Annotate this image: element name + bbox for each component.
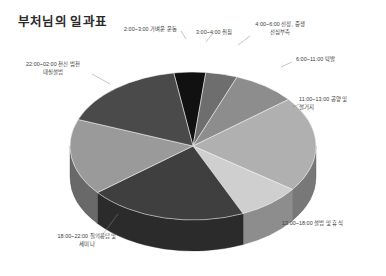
slice-label-devas: 22:00~02:00 천신 범천 대실설법 <box>9 61 97 77</box>
slice-label-meal-line2: 설거지 <box>299 104 375 112</box>
slice-label-devas-line1: 22:00~02:00 천신 범천 <box>9 61 97 69</box>
slice-label-alms: 6:00~11:00 탁발 <box>296 56 335 64</box>
slice-label-qna: 18:00~22:00 질의응답 및 세미나 <box>33 233 141 249</box>
slice-label-devas-line2: 대실설법 <box>9 69 97 77</box>
leader-line-meditation <box>238 36 250 45</box>
leader-line-alms <box>281 62 292 67</box>
slice-label-qna-line2: 세미나 <box>33 241 141 249</box>
slice-label-meal-line1: 11:00~13:00 공양 및 <box>299 96 375 104</box>
pie-top-face <box>70 72 316 220</box>
pie-chart-page: 부처님의 일과표 <box>0 0 386 276</box>
slice-label-exercise: 2:00~3:00 가벼운 운동 <box>124 26 177 34</box>
slice-label-meditation: 4:00~6:00 선정, 중생 선심부촉 <box>241 21 319 37</box>
slice-label-meditation-line2: 선심부촉 <box>241 29 319 37</box>
slice-label-sleep: 3:00~4:00 취침 <box>196 29 232 37</box>
slice-label-meditation-line1: 4:00~6:00 선정, 중생 <box>241 21 319 29</box>
slice-label-meal: 11:00~13:00 공양 및 설거지 <box>299 96 375 112</box>
leader-line-exercise <box>181 31 186 39</box>
slice-label-qna-line1: 18:00~22:00 질의응답 및 <box>33 233 141 241</box>
slice-label-teaching: 13:00~18:00 설법 및 휴식 <box>282 220 343 228</box>
